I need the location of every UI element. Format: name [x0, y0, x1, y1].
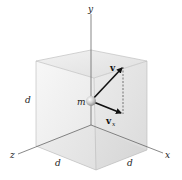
z-axis-label: z — [9, 150, 15, 160]
dimension-label-depth: d — [55, 158, 61, 168]
cube-left-face — [36, 61, 96, 170]
y-axis-label: y — [87, 4, 94, 14]
x-axis-label: x — [165, 150, 170, 160]
mass-label: m — [77, 97, 86, 107]
dimension-label-width: d — [127, 158, 133, 168]
velocity-label: v — [109, 63, 116, 73]
mass-sphere — [86, 96, 96, 106]
dimension-label-height: d — [25, 95, 31, 105]
cube-right-face — [94, 61, 147, 170]
cube-velocity-diagram: y z x d d d m v v x — [0, 0, 182, 180]
vx-label: v — [105, 116, 112, 126]
